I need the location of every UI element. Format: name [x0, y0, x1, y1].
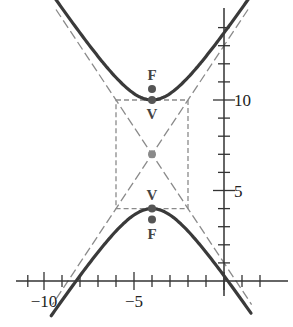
center-point [148, 150, 156, 158]
y-tick-label: 5 [234, 182, 243, 201]
vertex-upper-label: V [147, 106, 158, 122]
hyperbola-plot: −10−5105VVFF [0, 0, 293, 327]
focus-lower-point [148, 216, 156, 224]
vertex-lower-label: V [147, 187, 158, 203]
focus-upper-label: F [147, 67, 156, 83]
hyperbola-upper-branch [51, 0, 251, 100]
vertex-upper-point [148, 96, 156, 104]
focus-lower-label: F [147, 226, 156, 242]
labels-layer: −10−5105VVFF [31, 67, 251, 311]
vertex-lower-point [148, 205, 156, 213]
x-tick-label: −5 [125, 292, 143, 311]
x-tick-label: −10 [31, 292, 58, 311]
y-tick-label: 10 [234, 91, 251, 110]
focus-upper-point [148, 85, 156, 93]
